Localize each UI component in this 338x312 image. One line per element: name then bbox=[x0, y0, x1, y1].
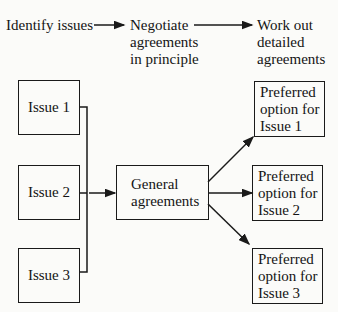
step-identify-issues: Identify issues bbox=[6, 17, 93, 34]
general-agreements-box: General agreements bbox=[116, 165, 209, 220]
preferred-line: option for bbox=[258, 268, 318, 285]
preferred-line: Preferred bbox=[258, 168, 318, 185]
step-negotiate-line: Negotiate bbox=[130, 17, 199, 34]
general-line: agreements bbox=[131, 193, 199, 210]
issue-label: Issue 1 bbox=[28, 99, 70, 116]
preferred-line: option for bbox=[258, 185, 318, 202]
step-work-out: Work out detailed agreements bbox=[257, 17, 325, 68]
arrow-to-preferred-1 bbox=[208, 137, 253, 182]
step-workout-line: Work out bbox=[257, 17, 325, 34]
preferred-option-box-2: Preferred option for Issue 2 bbox=[252, 165, 323, 221]
general-line: General bbox=[131, 176, 199, 193]
step-negotiate-line: in principle bbox=[130, 51, 199, 68]
step-workout-line: agreements bbox=[257, 51, 325, 68]
preferred-line: Issue 2 bbox=[258, 202, 318, 219]
preferred-line: Preferred bbox=[260, 84, 320, 101]
step-workout-line: detailed bbox=[257, 34, 325, 51]
preferred-line: Preferred bbox=[258, 251, 318, 268]
issues-bracket bbox=[79, 107, 87, 272]
issue-box-3: Issue 3 bbox=[18, 248, 80, 303]
issue-box-2: Issue 2 bbox=[18, 165, 80, 220]
preferred-option-box-1: Preferred option for Issue 1 bbox=[254, 81, 325, 137]
arrow-to-preferred-3 bbox=[208, 204, 249, 244]
step-negotiate: Negotiate agreements in principle bbox=[130, 17, 199, 68]
preferred-line: Issue 1 bbox=[260, 118, 320, 135]
issue-box-1: Issue 1 bbox=[18, 80, 80, 135]
preferred-option-box-3: Preferred option for Issue 3 bbox=[252, 248, 323, 304]
issue-label: Issue 3 bbox=[28, 267, 70, 284]
step-negotiate-line: agreements bbox=[130, 34, 199, 51]
preferred-line: option for bbox=[260, 101, 320, 118]
preferred-line: Issue 3 bbox=[258, 285, 318, 302]
issue-label: Issue 2 bbox=[28, 184, 70, 201]
